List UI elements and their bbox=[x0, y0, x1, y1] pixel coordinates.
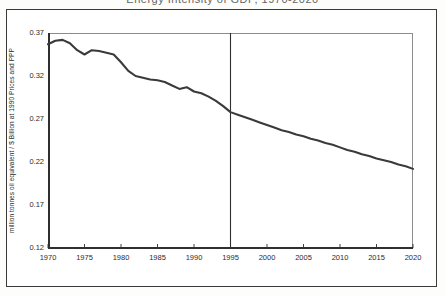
chart-canvas bbox=[0, 0, 445, 296]
scanned-page: Energy Intensity of GDP, 1970-2020 milli… bbox=[0, 0, 445, 296]
